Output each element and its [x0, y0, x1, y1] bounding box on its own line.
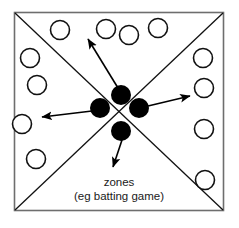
player-circle	[195, 79, 214, 98]
ball-marker	[111, 121, 131, 141]
player-circle	[28, 76, 47, 95]
player-circle	[120, 26, 139, 45]
player-circle	[27, 150, 46, 169]
zones-label: zones	[104, 176, 135, 188]
player-circle	[97, 20, 116, 39]
player-circle	[196, 171, 215, 190]
player-circle	[194, 49, 213, 68]
player-circle	[51, 21, 70, 40]
player-circle	[13, 115, 32, 134]
ball-marker	[90, 98, 110, 118]
ball-marker	[111, 85, 131, 105]
player-circle	[21, 49, 40, 68]
diagram-canvas: zones (eg batting game)	[0, 0, 239, 228]
player-circle	[149, 19, 168, 38]
example-label: (eg batting game)	[74, 190, 164, 202]
player-circle	[195, 120, 214, 139]
ball-marker	[129, 98, 149, 118]
zones-diagram: zones (eg batting game)	[0, 0, 239, 228]
